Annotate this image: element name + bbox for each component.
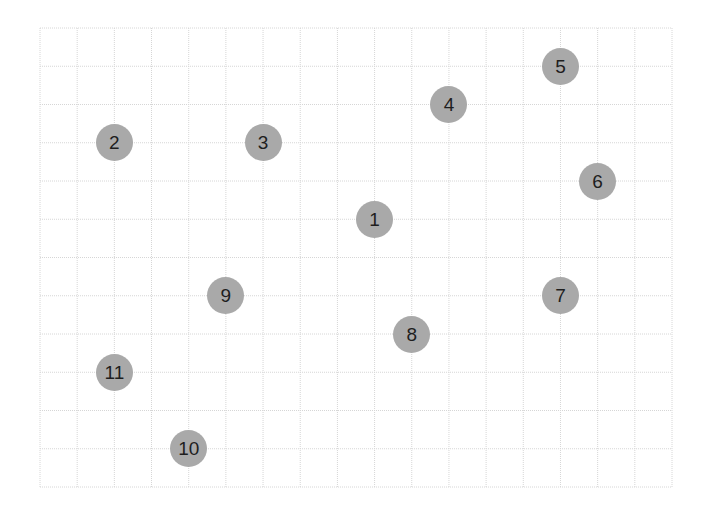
numbered-node-7[interactable]: 7: [542, 277, 579, 314]
numbered-node-11[interactable]: 11: [96, 354, 133, 391]
numbered-node-5[interactable]: 5: [542, 48, 579, 85]
numbered-node-8[interactable]: 8: [393, 316, 430, 353]
numbered-node-6[interactable]: 6: [579, 163, 616, 200]
numbered-node-1[interactable]: 1: [356, 201, 393, 238]
numbered-node-3[interactable]: 3: [245, 124, 282, 161]
grid-canvas: [0, 0, 706, 511]
numbered-node-2[interactable]: 2: [96, 124, 133, 161]
